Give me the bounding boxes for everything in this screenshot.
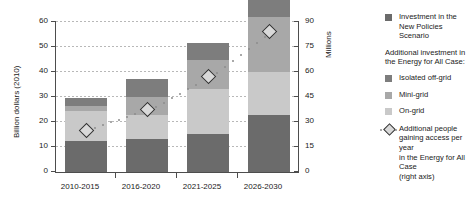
line-dot (110, 121, 112, 123)
legend-item-access-line[interactable]: Additional people gaining access per yea… (385, 124, 466, 182)
bar-segment-new-policies (187, 134, 229, 172)
line-dot (248, 48, 250, 50)
bar-segment-on-grid (248, 72, 290, 115)
legend-item-new-policies[interactable]: Investment in the New Policies Scenario (385, 12, 466, 41)
x-tick-separator (115, 173, 116, 178)
line-dot (134, 113, 136, 115)
y-tick-left-10: 10 (26, 142, 48, 150)
legend-item-mini-grid[interactable]: Mini-grid (385, 90, 466, 100)
line-dot (102, 124, 104, 126)
legend-label-access-line3: in the Energy for All Case (399, 153, 466, 172)
line-dot (94, 127, 96, 129)
legend-heading: Additional investment in the Energy for … (385, 48, 466, 67)
y-tick-right-15: 15 (305, 142, 327, 150)
legend-label-access-line4: (right axis) (399, 172, 466, 182)
line-dot (232, 60, 234, 62)
legend-label-access-line1: Additional people (399, 124, 466, 134)
y-tick-left-30: 30 (26, 92, 48, 100)
bar-segment-new-policies (248, 115, 290, 172)
legend-label-mini-grid: Mini-grid (399, 90, 466, 100)
bar-segment-isolated-off-grid (65, 98, 107, 106)
legend-label-access-line2: gaining access per year (399, 133, 466, 152)
y-tick-right-0: 0 (305, 167, 327, 175)
legend-label-new-policies-line2: New Policies Scenario (399, 22, 466, 41)
bar-segment-isolated-off-grid (126, 79, 168, 97)
y-axis-left-title: Billion dollars (2010) (12, 66, 21, 138)
bar-segment-mini-grid (65, 106, 107, 111)
line-dot (195, 84, 197, 86)
legend-swatch-on-grid-icon (385, 108, 392, 115)
bar-2016-2020[interactable] (126, 79, 168, 172)
legend-heading-line1: Additional investment in (385, 48, 466, 58)
legend-item-on-grid[interactable]: On-grid (385, 106, 466, 116)
legend-label-new-policies-line1: Investment in the (399, 12, 466, 22)
legend-item-isolated-off-grid[interactable]: Isolated off-grid (385, 73, 466, 83)
x-tick-separator (176, 173, 177, 178)
line-dot (163, 102, 165, 104)
line-dot (256, 42, 258, 44)
chart-legend: Investment in the New Policies Scenario … (385, 12, 466, 184)
plot-area (56, 21, 294, 172)
line-dot (224, 66, 226, 68)
bar-segment-on-grid (187, 89, 229, 134)
chart-figure: Billion dollars (2010) Millions 60 50 40… (0, 0, 466, 212)
legend-swatch-isolated-off-grid-icon (385, 75, 392, 82)
x-axis-spine (55, 172, 299, 173)
bar-segment-on-grid (126, 115, 168, 139)
legend-label-isolated-off-grid: Isolated off-grid (399, 73, 466, 83)
y-tick-left-40: 40 (26, 67, 48, 75)
line-dot (126, 116, 128, 118)
line-dot (240, 54, 242, 56)
y-tick-left-50: 50 (26, 42, 48, 50)
x-tick-label-2016-2020: 2016-2020 (111, 182, 171, 191)
bar-segment-isolated-off-grid (248, 0, 290, 17)
y-tick-left-60: 60 (26, 17, 48, 25)
x-tick-label-2010-2015: 2010-2015 (50, 182, 110, 191)
y-tick-left-0: 0 (26, 167, 48, 175)
legend-diamond-marker-icon (383, 125, 396, 134)
y-tick-right-30: 30 (305, 117, 327, 125)
y-tick-right-45: 45 (305, 92, 327, 100)
bar-segment-isolated-off-grid (187, 43, 229, 60)
legend-swatch-new-policies-icon (385, 14, 392, 21)
legend-swatch-mini-grid-icon (385, 92, 392, 99)
y-tick-right-90: 90 (305, 17, 327, 25)
line-dot (187, 88, 189, 90)
legend-label-on-grid: On-grid (399, 106, 466, 116)
line-dot (179, 93, 181, 95)
bar-segment-new-policies (65, 141, 107, 172)
y-axis-right-spine (298, 21, 299, 172)
y-tick-right-60: 60 (305, 67, 327, 75)
bar-2021-2025[interactable] (187, 43, 229, 172)
y-tick-right-75: 75 (305, 42, 327, 50)
bar-segment-new-policies (126, 139, 168, 172)
x-tick-label-2026-2030: 2026-2030 (233, 182, 293, 191)
line-dot (216, 72, 218, 74)
y-tick-left-20: 20 (26, 117, 48, 125)
line-dot (171, 97, 173, 99)
line-dot (118, 119, 120, 121)
legend-heading-line2: the Energy for All Case: (385, 57, 466, 67)
line-dot (155, 106, 157, 108)
x-tick-label-2021-2025: 2021-2025 (172, 182, 232, 191)
x-tick-separator (237, 173, 238, 178)
